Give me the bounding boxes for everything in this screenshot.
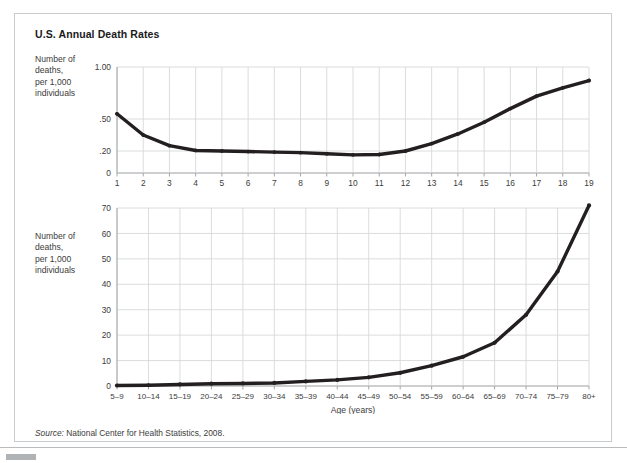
x-tick-label: 12 <box>401 178 411 188</box>
x-tick-label: 5 <box>220 178 225 188</box>
x-tick-label: 2 <box>141 178 146 188</box>
data-point <box>404 149 408 153</box>
data-point <box>299 151 303 155</box>
x-tick-label: 15 <box>479 178 489 188</box>
x-tick-label: 14 <box>453 178 463 188</box>
x-tick-label: 40–44 <box>326 392 349 401</box>
x-tick-label: 65–69 <box>483 392 506 401</box>
data-point <box>587 79 591 83</box>
footer-divider <box>0 447 627 448</box>
data-point <box>430 142 434 146</box>
x-tick-label: 4 <box>193 178 198 188</box>
x-tick-label: 8 <box>298 178 303 188</box>
data-point <box>461 355 465 359</box>
source-prefix: Source: <box>35 428 64 438</box>
data-point <box>561 86 565 90</box>
x-tick-label: 16 <box>506 178 516 188</box>
data-point <box>367 375 371 379</box>
x-tick-label: 3 <box>167 178 172 188</box>
data-point <box>377 153 381 157</box>
data-point <box>115 383 119 387</box>
x-tick-label: 15–19 <box>169 392 192 401</box>
y-tick-label: .20 <box>99 146 111 156</box>
y-tick-label: 40 <box>102 279 112 289</box>
chart-bottom-age-bands: 0102030405060705–910–1415–1920–2425–2930… <box>89 196 599 414</box>
x-tick-label: 6 <box>246 178 251 188</box>
data-point <box>141 133 145 137</box>
y-tick-label: 1.00 <box>95 62 112 72</box>
data-point <box>220 149 224 153</box>
data-point <box>178 382 182 386</box>
x-tick-label: 80+ <box>582 392 596 401</box>
data-point <box>272 150 276 154</box>
y-tick-label: 0 <box>106 381 111 391</box>
data-point <box>272 381 276 385</box>
data-point <box>430 364 434 368</box>
x-tick-label: 45–49 <box>358 392 381 401</box>
x-tick-label: 5–9 <box>110 392 124 401</box>
data-point <box>456 132 460 136</box>
x-tick-label: 10 <box>348 178 358 188</box>
data-point <box>194 149 198 153</box>
x-tick-label: 11 <box>375 178 384 188</box>
data-point <box>555 269 559 273</box>
y-tick-label: 60 <box>102 229 112 239</box>
x-tick-label: 18 <box>558 178 568 188</box>
x-tick-label: 70–74 <box>515 392 538 401</box>
y-tick-label: 50 <box>102 254 112 264</box>
x-tick-label: 50–54 <box>389 392 412 401</box>
data-point <box>325 152 329 156</box>
data-point <box>146 383 150 387</box>
data-point <box>241 381 245 385</box>
figure-title: U.S. Annual Death Rates <box>35 28 159 40</box>
x-tick-label: 1 <box>115 178 120 188</box>
y-tick-label: 70 <box>102 203 112 213</box>
data-point <box>335 378 339 382</box>
x-tick-label: 13 <box>427 178 437 188</box>
y-tick-label: 10 <box>102 356 112 366</box>
x-tick-label: 60–64 <box>452 392 475 401</box>
x-tick-label: 10–14 <box>137 392 160 401</box>
x-tick-label: 30–34 <box>263 392 286 401</box>
source-note: Source: National Center for Health Stati… <box>35 428 224 438</box>
data-point <box>524 313 528 317</box>
x-tick-label: 17 <box>532 178 542 188</box>
x-tick-label: 75–79 <box>546 392 569 401</box>
source-text: National Center for Health Statistics, 2… <box>64 428 225 438</box>
y-tick-label: 20 <box>102 330 112 340</box>
x-tick-label: 19 <box>584 178 594 188</box>
x-tick-label: 9 <box>324 178 329 188</box>
data-point <box>209 382 213 386</box>
data-point <box>493 341 497 345</box>
corner-marker <box>6 454 36 460</box>
y-tick-label: .50 <box>99 114 111 124</box>
x-tick-label: 7 <box>272 178 277 188</box>
data-line <box>117 205 589 385</box>
data-point <box>304 379 308 383</box>
data-point <box>535 94 539 98</box>
x-tick-label: 35–39 <box>295 392 318 401</box>
data-point <box>398 371 402 375</box>
x-axis-title: Age (years) <box>331 405 376 414</box>
figure-panel: U.S. Annual Death Rates Number ofdeaths,… <box>14 13 612 442</box>
data-point <box>587 203 591 207</box>
y-tick-label: 30 <box>102 305 112 315</box>
data-point <box>246 150 250 154</box>
y-tick-label: 0 <box>106 168 111 178</box>
data-point <box>508 107 512 111</box>
x-tick-label: 25–29 <box>232 392 255 401</box>
chart-top-children: 1.00.50.20012345678910111213141516171819… <box>89 48 599 188</box>
x-tick-label: 55–59 <box>421 392 444 401</box>
data-point <box>482 120 486 124</box>
x-tick-label: 20–24 <box>200 392 223 401</box>
data-point <box>115 112 119 116</box>
data-point <box>351 153 355 157</box>
data-point <box>168 144 172 148</box>
